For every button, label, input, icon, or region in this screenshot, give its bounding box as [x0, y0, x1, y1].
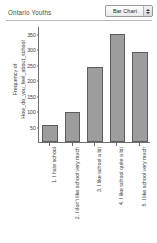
x-tick-label: 2. I don't like school very much	[74, 75, 80, 147]
x-tick-label-text: 4. I like school quite a bit	[118, 147, 124, 205]
y-axis-ticks: 50100150200250300350	[22, 24, 38, 146]
triangle-down-icon[interactable]	[146, 12, 150, 14]
y-tick-label: 350	[27, 32, 36, 38]
chart-plot: Frequency of How_do_you_feel_about_schoo…	[0, 24, 157, 243]
x-tick-label: 4. I like school quite a bit	[118, 89, 124, 147]
y-tick-label: 250	[27, 63, 36, 69]
x-tick-mark	[94, 143, 95, 146]
y-tick-label: 200	[27, 78, 36, 84]
x-tick-label-text: 3. I like school a bit	[96, 147, 102, 192]
header-divider	[6, 20, 152, 21]
x-axis-labels: 1. I hate school2. I don't like school v…	[38, 147, 150, 243]
y-tick-label: 150	[27, 94, 36, 100]
x-tick-label: 1. I hate school	[51, 111, 57, 147]
chart-type-label: Bar Chart	[106, 8, 143, 14]
chart-type-select[interactable]: Bar Chart	[105, 5, 153, 17]
y-tick-label: 300	[27, 47, 36, 53]
y-tick-label: 50	[30, 125, 36, 131]
x-tick-label: 3. I like school a bit	[96, 102, 102, 147]
x-tick-label-text: 2. I don't like school very much	[74, 147, 80, 219]
y-axis-title-line-1: Frequency of	[12, 20, 20, 140]
y-tick-label: 100	[27, 109, 36, 115]
x-tick-label: 5. I like school very much	[141, 88, 147, 147]
x-tick-label-text: 5. I like school very much	[141, 147, 147, 206]
x-tick-label-text: 1. I hate school	[51, 147, 57, 183]
x-tick-mark	[139, 143, 140, 146]
chart-type-stepper[interactable]	[143, 6, 152, 16]
page-title: Ontario Youths	[8, 9, 51, 16]
triangle-up-icon[interactable]	[146, 9, 150, 11]
x-tick-mark	[72, 143, 73, 146]
